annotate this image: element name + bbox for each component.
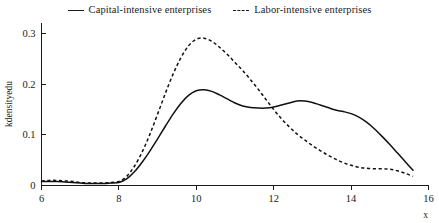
x-axis: 6810121416: [39, 186, 434, 204]
data-series-group: [42, 38, 414, 184]
y-axis-tick-label: 0.1: [22, 129, 35, 140]
kdensity-chart-figure: Capital-intensive enterprises Labor-inte…: [0, 0, 439, 223]
x-axis-tick-label: 14: [346, 193, 357, 204]
x-axis-tick-label: 8: [116, 193, 121, 204]
line-solid-icon: [68, 10, 84, 11]
x-axis-tick-label: 12: [268, 193, 279, 204]
series-line-capital-intensive: [42, 90, 414, 184]
x-axis-tick-label: 16: [423, 193, 434, 204]
chart-legend: Capital-intensive enterprises Labor-inte…: [0, 0, 439, 20]
x-axis-tick-label: 6: [39, 193, 44, 204]
legend-entry-labor-intensive[interactable]: Labor-intensive enterprises: [233, 5, 371, 16]
plot-area: 00.10.20.3 6810121416 kdensityedu x: [0, 0, 439, 223]
y-axis-tick-label: 0: [30, 180, 35, 191]
y-axis-title: kdensityedu: [4, 81, 14, 127]
series-line-labor-intensive: [42, 38, 414, 183]
x-axis-title: x: [423, 210, 428, 220]
legend-label-labor-intensive: Labor-intensive enterprises: [254, 5, 371, 16]
x-axis-tick-label: 10: [191, 193, 202, 204]
legend-label-capital-intensive: Capital-intensive enterprises: [89, 5, 212, 16]
y-axis: 00.10.20.3: [22, 23, 45, 191]
legend-entry-capital-intensive[interactable]: Capital-intensive enterprises: [68, 5, 212, 16]
y-axis-tick-label: 0.2: [22, 79, 35, 90]
y-axis-tick-label: 0.3: [22, 28, 35, 39]
line-dashed-icon: [233, 10, 249, 11]
